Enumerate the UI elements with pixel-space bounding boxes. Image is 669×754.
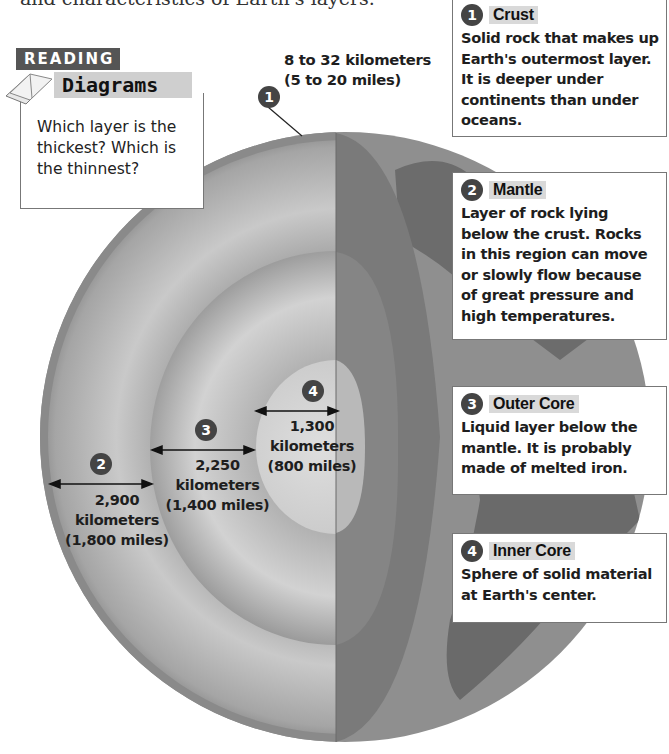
crust-marker: 1 bbox=[258, 86, 280, 108]
inner-core-thickness-label: 1,300 kilometers (800 miles) bbox=[262, 416, 362, 476]
reading-diagrams-title: Diagrams bbox=[54, 72, 192, 98]
outer-core-km-value: 2,250 bbox=[160, 455, 275, 475]
number-badge-3: 3 bbox=[195, 419, 217, 441]
callout-body: Sphere of solid material at Earth's cent… bbox=[461, 564, 659, 605]
callout-crust: 1Crust Solid rock that makes up Earth's … bbox=[452, 0, 667, 137]
number-badge-2: 2 bbox=[90, 453, 112, 475]
crust-pointer bbox=[268, 107, 302, 136]
number-badge-1: 1 bbox=[258, 86, 280, 108]
open-book-icon bbox=[2, 66, 62, 106]
outer-core-miles: (1,400 miles) bbox=[160, 495, 275, 515]
callout-inner-core: 4Inner Core Sphere of solid material at … bbox=[452, 533, 667, 623]
crust-km: 8 to 32 kilometers bbox=[284, 50, 431, 70]
callout-title: Inner Core bbox=[489, 542, 575, 560]
callout-body: Liquid layer below the mantle. It is pro… bbox=[461, 417, 659, 479]
inner-core-km-value: 1,300 bbox=[262, 416, 362, 436]
outer-core-km-unit: kilometers bbox=[160, 475, 275, 495]
number-badge-4: 4 bbox=[302, 380, 324, 402]
mantle-marker: 2 bbox=[90, 453, 112, 475]
callout-mantle: 2Mantle Layer of rock lying below the cr… bbox=[452, 172, 667, 340]
crust-miles: (5 to 20 miles) bbox=[284, 70, 431, 90]
callout-body: Solid rock that makes up Earth's outermo… bbox=[461, 28, 659, 131]
inner-core-miles: (800 miles) bbox=[262, 456, 362, 476]
number-badge-1: 1 bbox=[461, 4, 483, 26]
callout-body: Layer of rock lying below the crust. Roc… bbox=[461, 203, 659, 326]
inner-core-marker: 4 bbox=[302, 380, 324, 402]
inner-core-km-unit: kilometers bbox=[262, 436, 362, 456]
mantle-miles: (1,800 miles) bbox=[52, 530, 182, 550]
outer-core-marker: 3 bbox=[195, 419, 217, 441]
outer-core-thickness-label: 2,250 kilometers (1,400 miles) bbox=[160, 455, 275, 515]
reading-diagrams-question: Which layer is the thickest? Which is th… bbox=[37, 117, 187, 180]
number-badge-3: 3 bbox=[461, 393, 483, 415]
callout-title: Outer Core bbox=[489, 395, 579, 413]
callout-outer-core: 3Outer Core Liquid layer below the mantl… bbox=[452, 386, 667, 495]
callout-title: Crust bbox=[489, 6, 538, 24]
number-badge-4: 4 bbox=[461, 540, 483, 562]
crust-thickness-label: 8 to 32 kilometers (5 to 20 miles) bbox=[284, 50, 431, 90]
number-badge-2: 2 bbox=[461, 179, 483, 201]
callout-title: Mantle bbox=[489, 181, 546, 199]
